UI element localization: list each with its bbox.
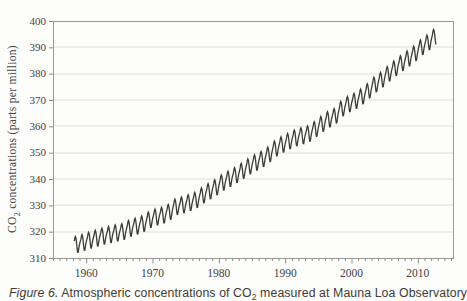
y-tick-label: 350 (30, 146, 47, 158)
y-tick-label: 340 (30, 173, 47, 185)
y-tick-label: 370 (30, 94, 47, 106)
y-tick-label: 400 (30, 15, 47, 27)
plot-frame (54, 22, 454, 259)
x-tick-label: 2010 (406, 267, 429, 279)
y-tick-label: 330 (30, 199, 47, 211)
y-tick-label: 390 (30, 41, 47, 53)
figure-caption-text-2: measured at Mauna Loa Observatory (257, 286, 467, 300)
y-tick-label: 380 (30, 67, 47, 79)
co2-line-chart: 3103203303403503603703803904001960197019… (0, 0, 467, 301)
co2-data-series (74, 29, 436, 252)
x-tick-label: 1990 (274, 267, 297, 279)
figure-caption-label: Figure 6. (9, 286, 58, 300)
scanned-figure: 3103203303403503603703803904001960197019… (0, 0, 467, 301)
y-tick-label: 320 (30, 225, 47, 237)
x-tick-label: 1980 (207, 267, 230, 279)
y-tick-label: 310 (30, 252, 47, 264)
figure-caption: Figure 6. Atmospheric concentrations of … (9, 286, 467, 301)
y-axis-title: CO2 concentrations (parts per million) (6, 45, 21, 233)
x-tick-label: 1960 (75, 267, 98, 279)
y-tick-label: 360 (30, 120, 47, 132)
x-tick-label: 2000 (340, 267, 363, 279)
x-tick-label: 1970 (141, 267, 164, 279)
figure-caption-text-1: Atmospheric concentrations of CO (58, 286, 251, 300)
y-axis-title-subscript: 2 (13, 212, 22, 216)
